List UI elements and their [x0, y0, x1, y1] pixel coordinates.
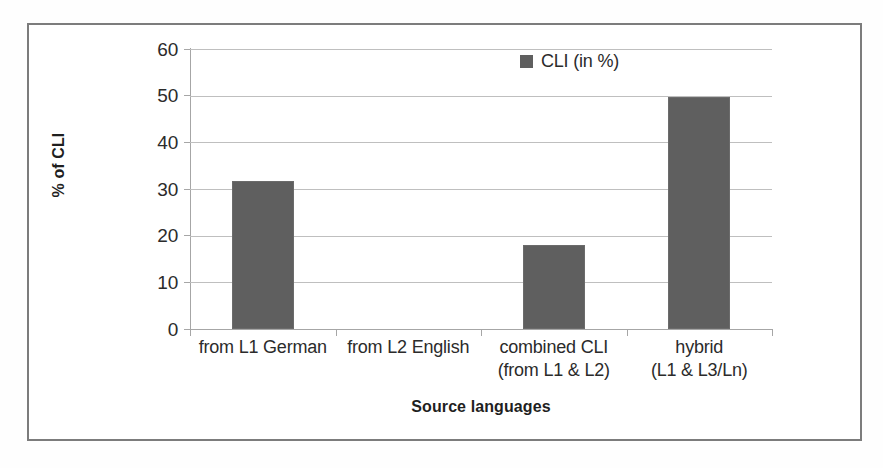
x-tick-label-line1: from L1 German	[199, 337, 327, 357]
bar-slot-hybrid	[627, 49, 773, 329]
legend-swatch-icon	[520, 55, 533, 68]
y-tick-label-30: 30	[138, 180, 178, 199]
x-tick-label-from-l2-english: from L2 English	[336, 336, 482, 359]
bar-hybrid[interactable]	[668, 97, 730, 329]
x-axis-title: Source languages	[190, 398, 772, 416]
x-tick-label-combined-cli: combined CLI (from L1 & L2)	[481, 336, 627, 382]
y-tick-label-20: 20	[138, 226, 178, 245]
x-tick-mark-2	[481, 329, 482, 336]
x-tick-mark-3	[627, 329, 628, 336]
plot-area	[190, 49, 772, 329]
y-tick-label-50: 50	[138, 86, 178, 105]
bar-combined-cli[interactable]	[523, 245, 585, 329]
x-tick-label-line2: (from L1 & L2)	[481, 359, 627, 382]
bar-slot-from-l2-english	[336, 49, 482, 329]
chart-legend: CLI (in %)	[520, 52, 619, 70]
bar-from-l1-german[interactable]	[232, 181, 294, 329]
bar-slot-from-l1-german	[190, 49, 336, 329]
figure: 60 50 40 30 20 10 0 % of CLI	[0, 0, 883, 468]
y-axis-tick-labels: 60 50 40 30 20 10 0	[128, 0, 178, 468]
y-axis-title: % of CLI	[50, 90, 68, 240]
x-tick-label-from-l1-german: from L1 German	[190, 336, 336, 359]
x-tick-label-line1: hybrid	[675, 337, 723, 357]
x-tick-mark-1	[336, 329, 337, 336]
x-tick-mark-4	[772, 329, 773, 336]
x-tick-mark-0	[190, 329, 191, 336]
x-tick-label-hybrid: hybrid (L1 & L3/Ln)	[627, 336, 773, 382]
bar-chart: 60 50 40 30 20 10 0 % of CLI	[0, 0, 883, 468]
x-axis-tick-labels: from L1 German from L2 English combined …	[190, 336, 772, 398]
y-tick-label-60: 60	[138, 40, 178, 59]
x-tick-label-line1: combined CLI	[499, 337, 608, 357]
x-tick-label-line1: from L2 English	[347, 337, 469, 357]
y-tick-label-40: 40	[138, 133, 178, 152]
legend-entry-label: CLI (in %)	[541, 52, 619, 70]
x-tick-label-line2: (L1 & L3/Ln)	[627, 359, 773, 382]
y-tick-label-10: 10	[138, 273, 178, 292]
bar-slot-combined-cli	[481, 49, 627, 329]
y-tick-label-0: 0	[138, 320, 178, 339]
